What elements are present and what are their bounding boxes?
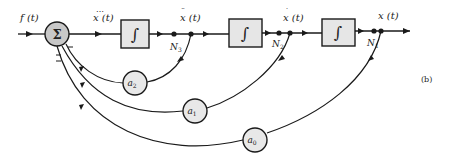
signal-label-x: x (t) [378, 10, 399, 21]
arrowhead [79, 104, 84, 110]
arrowhead [368, 55, 374, 61]
input-signal [18, 31, 45, 37]
block-diagram: f (t) Σ x (t) ⋯ ∫ N3 x (t) ¨ ∫ N2 x (t) … [0, 0, 452, 163]
integrator-block-1: ∫ [121, 20, 149, 48]
input-label: f (t) [19, 12, 39, 23]
sigma-symbol: Σ [52, 27, 61, 42]
figure-label: (b) [421, 75, 432, 84]
gain-a0: a0 [243, 128, 267, 152]
node-label-n3: N3 [169, 42, 182, 53]
gain-a1: a1 [183, 99, 207, 123]
node-n1 [371, 28, 376, 33]
arrowhead [80, 82, 85, 88]
integral-symbol: ∫ [131, 25, 139, 44]
integral-symbol: ∫ [334, 23, 342, 42]
node-n3 [171, 31, 176, 36]
integrator-block-3: ∫ [322, 19, 355, 46]
single-dot: ˙ [285, 7, 289, 16]
integrator-block-2: ∫ [229, 19, 262, 47]
gain-a2: a2 [123, 71, 147, 95]
integral-symbol: ∫ [241, 24, 249, 43]
summing-junction: Σ [45, 22, 69, 46]
feedback-paths [57, 31, 381, 146]
double-dot: ¨ [181, 7, 185, 16]
node-n2 [276, 30, 281, 35]
node-label-n2: N2 [271, 39, 284, 50]
triple-dot: ⋯ [96, 7, 104, 16]
arrowhead [79, 66, 84, 72]
